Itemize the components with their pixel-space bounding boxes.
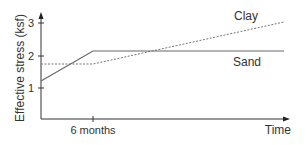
chart: 3 2 1 6 months Effective stress (ksf) Ti…: [0, 0, 306, 145]
y-tick-label-2: 2: [28, 50, 34, 62]
series-label-sand: Sand: [233, 55, 261, 69]
y-axis-arrow-icon: [39, 12, 44, 19]
x-tick-label-6-months: 6 months: [70, 124, 116, 136]
y-tick-label-3: 3: [28, 17, 34, 29]
x-axis-arrow-icon: [283, 117, 290, 122]
x-axis-label: Time: [265, 123, 292, 137]
series-label-clay: Clay: [234, 9, 258, 23]
y-tick-label-1: 1: [28, 82, 34, 94]
y-axis-label: Effective stress (ksf): [13, 14, 27, 122]
